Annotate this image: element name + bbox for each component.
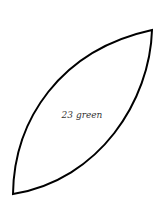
lens-label: 23 green [61, 110, 103, 120]
lens-diagram: 23 green [0, 0, 160, 208]
